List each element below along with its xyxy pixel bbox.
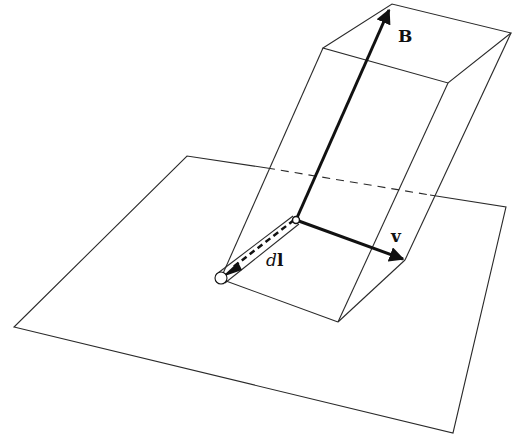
vector-dl	[215, 216, 300, 284]
diagram-canvas: B v d l	[0, 0, 515, 437]
label-b: B	[398, 26, 412, 46]
label-v: v	[390, 226, 402, 246]
vector-b	[296, 10, 389, 220]
label-dl-d: d	[266, 250, 277, 270]
vector-v	[296, 220, 403, 259]
wire-cross-section	[215, 272, 227, 284]
parallelepiped	[221, 4, 511, 322]
ground-plane	[14, 156, 506, 433]
label-dl-l: l	[277, 250, 284, 270]
